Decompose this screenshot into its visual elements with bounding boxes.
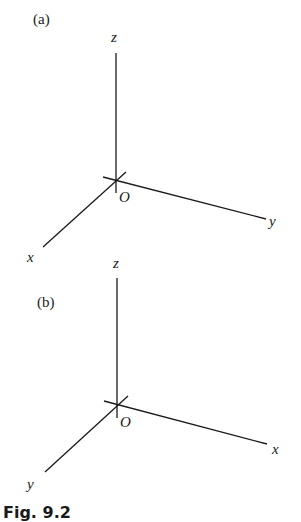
panel-a-label: (a)	[33, 11, 50, 28]
panel-a-origin-label: O	[119, 189, 130, 205]
panel-a-y-label: y	[267, 213, 276, 229]
figure-canvas: (a) z y x O (b) z x y O Fig. 9.2	[0, 0, 301, 522]
panel-b-z-label: z	[112, 255, 119, 271]
panel-b-label: (b)	[37, 294, 55, 311]
panel-b: (b) z x y O	[25, 255, 279, 492]
panel-a-z-label: z	[110, 29, 117, 45]
panel-b-origin-label: O	[120, 414, 131, 430]
figure-caption: Fig. 9.2	[3, 503, 71, 522]
panel-b-y-axis	[45, 396, 128, 472]
panel-b-y-label: y	[25, 476, 34, 492]
panel-a-x-label: x	[26, 249, 34, 265]
panel-a: (a) z y x O	[26, 11, 276, 265]
panel-b-x-label: x	[271, 441, 279, 457]
panel-a-x-axis	[43, 172, 126, 247]
